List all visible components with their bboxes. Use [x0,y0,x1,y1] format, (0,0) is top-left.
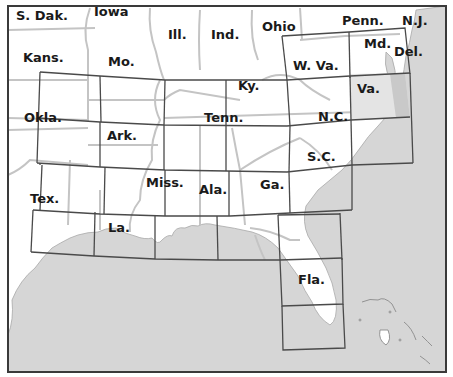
label-ind: Ind. [211,27,239,42]
label-ky: Ky. [238,78,259,93]
label-w-va: W. Va. [293,58,339,73]
label-del: Del. [394,44,423,59]
label-tex: Tex. [30,191,59,206]
label-okla: Okla. [24,110,62,125]
label-ga: Ga. [260,177,284,192]
label-kans: Kans. [23,50,64,65]
label-nj: N.J. [402,13,428,28]
label-ark: Ark. [107,128,137,143]
label-fla: Fla. [298,272,325,287]
index-map: S. Dak. Iowa Ill. Ind. Ohio Penn. N.J. M… [0,0,453,377]
label-nc: N.C. [318,109,348,124]
label-va: Va. [357,81,380,96]
label-ala: Ala. [199,182,227,197]
label-mo: Mo. [108,54,135,69]
label-la: La. [108,220,130,235]
label-tenn: Tenn. [204,110,243,125]
label-miss: Miss. [146,175,184,190]
label-ill: Ill. [168,27,187,42]
label-penn: Penn. [342,13,384,28]
label-sc: S.C. [307,149,336,164]
label-ohio: Ohio [262,19,296,34]
label-s-dak: S. Dak. [16,8,68,23]
label-md: Md. [364,36,391,51]
